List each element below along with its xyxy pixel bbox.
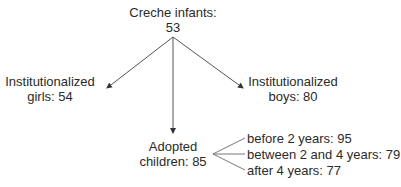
branch-between: between 2 and 4 years: 79	[247, 147, 400, 162]
girls-node: Institutionalized girls: 54	[0, 74, 100, 104]
branch-line-before	[213, 138, 245, 154]
root-value: 53	[123, 20, 223, 35]
arrow-to-girls	[107, 37, 173, 88]
arrow-to-boys	[173, 37, 243, 88]
adopted-node: Adopted children: 85	[133, 139, 213, 169]
girls-line1: Institutionalized	[0, 74, 100, 89]
branch-after: after 4 years: 77	[247, 163, 341, 178]
boys-line2: boys: 80	[243, 89, 343, 104]
boys-line1: Institutionalized	[243, 74, 343, 89]
root-label: Creche infants:	[123, 5, 223, 20]
boys-node: Institutionalized boys: 80	[243, 74, 343, 104]
branch-line-after	[213, 154, 245, 170]
adopted-line2: children: 85	[133, 154, 213, 169]
branch-before: before 2 years: 95	[247, 131, 352, 146]
girls-line2: girls: 54	[0, 89, 100, 104]
adopted-line1: Adopted	[133, 139, 213, 154]
root-node: Creche infants: 53	[123, 5, 223, 35]
